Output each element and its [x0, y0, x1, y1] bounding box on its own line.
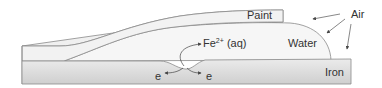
fe-ion-base: Fe: [203, 37, 216, 49]
iron-label: Iron: [325, 66, 344, 78]
air-label: Air: [351, 8, 365, 20]
fe-ion-label: Fe2+ (aq): [203, 37, 246, 49]
fe-ion-state: (aq): [224, 37, 247, 49]
fe-ion-charge: 2+: [216, 37, 224, 44]
iron-substrate: [22, 59, 351, 84]
electron-label-left: e: [155, 70, 161, 82]
corrosion-diagram: Paint Water Iron Air Fe2+ (aq) e e: [0, 0, 382, 88]
water-label: Water: [288, 37, 317, 49]
air-arrow-3: [347, 24, 351, 49]
air-arrow-2: [327, 19, 345, 33]
electron-label-right: e: [206, 70, 212, 82]
air-arrow-1: [313, 14, 340, 19]
paint-label: Paint: [247, 9, 272, 21]
